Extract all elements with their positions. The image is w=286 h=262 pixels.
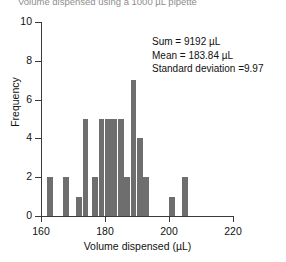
- y-tick-label: 8: [0, 55, 32, 66]
- histogram-bar: [182, 177, 188, 216]
- x-tick-label: 220: [213, 225, 253, 237]
- x-tick-label: 160: [21, 225, 61, 237]
- histogram-bar: [63, 177, 69, 216]
- y-tick-label: 6: [0, 94, 32, 105]
- x-tick: [105, 216, 106, 222]
- x-tick: [233, 216, 234, 222]
- statistics-annotation: Sum = 9192 µL Mean = 183.84 µL Standard …: [152, 35, 284, 76]
- y-tick-label: 2: [0, 171, 32, 182]
- annotation-stdev: Standard deviation =9.97: [152, 62, 284, 76]
- histogram-bar: [92, 177, 98, 216]
- histogram-bar: [118, 119, 124, 216]
- histogram-bar: [169, 197, 175, 216]
- y-tick-label: 4: [0, 132, 32, 143]
- x-tick: [41, 216, 42, 222]
- histogram-bar: [76, 197, 82, 216]
- histogram-bar: [131, 80, 137, 216]
- x-tick-label: 180: [85, 225, 125, 237]
- histogram-bar: [105, 119, 111, 216]
- y-tick-label: 10: [0, 16, 32, 27]
- histogram-bar: [47, 177, 53, 216]
- x-axis-line: [41, 216, 234, 217]
- annotation-mean: Mean = 183.84 µL: [152, 49, 284, 63]
- x-tick: [169, 216, 170, 222]
- histogram-bar: [137, 138, 143, 216]
- chart-title: Volume dispensed using a 1000 µL pipette: [18, 0, 278, 7]
- x-tick-label: 200: [149, 225, 189, 237]
- histogram-bar: [83, 119, 89, 216]
- histogram-bar: [111, 119, 117, 216]
- histogram-bar: [143, 177, 149, 216]
- x-axis-label: Volume dispensed (µL): [41, 240, 234, 252]
- histogram-figure: Volume dispensed using a 1000 µL pipette…: [0, 0, 286, 262]
- histogram-bar: [99, 119, 105, 216]
- histogram-bar: [124, 177, 130, 216]
- y-tick-label: 0: [0, 210, 32, 221]
- annotation-sum: Sum = 9192 µL: [152, 35, 284, 49]
